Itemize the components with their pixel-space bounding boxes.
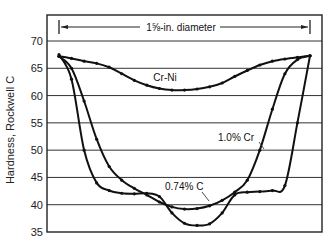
data-point: [258, 190, 261, 193]
data-point: [195, 207, 198, 210]
data-point: [283, 184, 286, 187]
data-point: [271, 60, 274, 63]
data-point: [120, 72, 123, 75]
data-point: [133, 79, 136, 82]
data-point: [120, 192, 123, 195]
y-tick-label: 70: [31, 35, 43, 47]
y-tick-label: 55: [31, 117, 43, 129]
data-point: [271, 189, 274, 192]
data-point: [170, 211, 173, 214]
y-axis-label: Hardness, Rockwell C: [4, 76, 16, 184]
data-point: [83, 60, 86, 63]
data-point: [158, 87, 161, 90]
data-point: [70, 57, 73, 60]
data-point: [221, 81, 224, 84]
data-point: [296, 121, 299, 124]
data-point: [95, 138, 98, 141]
data-point: [70, 67, 73, 70]
data-point: [133, 192, 136, 195]
hardness-chart: 3540455055606570 Hardness, Rockwell C 1⅝…: [0, 0, 332, 249]
diameter-annotation: 1⅝-in. diameter: [59, 20, 310, 34]
data-point: [108, 189, 111, 192]
y-tick-label: 40: [31, 199, 43, 211]
data-point: [221, 199, 224, 202]
data-point: [258, 63, 261, 66]
data-point: [57, 53, 60, 56]
data-point: [246, 179, 249, 182]
plot-frame: [47, 15, 322, 232]
data-point: [308, 54, 311, 57]
data-point: [208, 85, 211, 88]
data-point: [145, 84, 148, 87]
data-point: [195, 224, 198, 227]
data-point: [95, 181, 98, 184]
data-point: [95, 62, 98, 65]
data-point: [108, 165, 111, 168]
data-point: [208, 222, 211, 225]
y-tick-label: 35: [31, 226, 43, 238]
y-tick-label: 60: [31, 90, 43, 102]
label-074-c: 0.74% C: [165, 181, 203, 192]
data-point: [183, 207, 186, 210]
data-point: [83, 99, 86, 102]
data-point: [183, 89, 186, 92]
diameter-label: 1⅝-in. diameter: [146, 22, 216, 33]
data-point: [183, 222, 186, 225]
data-point: [258, 149, 261, 152]
data-point: [170, 205, 173, 208]
data-point: [120, 179, 123, 182]
data-point: [283, 72, 286, 75]
data-point: [83, 149, 86, 152]
data-point: [271, 108, 274, 111]
data-point: [296, 58, 299, 61]
curves: [57, 53, 311, 227]
label-cr-ni: Cr-Ni: [153, 72, 176, 83]
data-point: [208, 204, 211, 207]
data-point: [158, 195, 161, 198]
data-point: [246, 69, 249, 72]
data-point: [145, 192, 148, 195]
leader-074-c: [202, 192, 209, 201]
data-point: [158, 200, 161, 203]
data-point: [70, 78, 73, 81]
data-point: [170, 89, 173, 92]
label-1pct-cr: 1.0% Cr: [218, 132, 255, 143]
data-point: [133, 187, 136, 190]
y-tick-label: 45: [31, 171, 43, 183]
y-tick-label: 50: [31, 144, 43, 156]
data-point: [233, 75, 236, 78]
y-axis-ticks: 3540455055606570: [31, 35, 43, 238]
data-point: [108, 66, 111, 69]
data-point: [221, 211, 224, 214]
data-point: [246, 191, 249, 194]
data-point: [195, 87, 198, 90]
data-point: [233, 193, 236, 196]
data-point: [283, 57, 286, 60]
y-tick-label: 65: [31, 62, 43, 74]
